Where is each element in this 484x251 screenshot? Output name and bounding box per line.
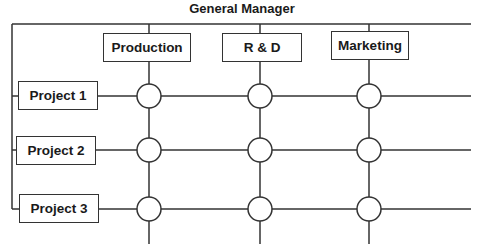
project-box-1: Project 1: [18, 81, 98, 110]
intersection-node: [248, 138, 272, 162]
department-box-production: Production: [103, 33, 191, 62]
intersection-node: [137, 197, 161, 221]
project-box-3: Project 3: [19, 194, 99, 223]
intersection-node: [137, 84, 161, 108]
intersection-node: [137, 138, 161, 162]
project-box-2: Project 2: [16, 136, 96, 165]
intersection-node: [248, 84, 272, 108]
intersection-node: [357, 138, 381, 162]
intersection-node: [248, 197, 272, 221]
department-box-rnd: R & D: [222, 33, 302, 62]
intersection-node: [357, 197, 381, 221]
department-box-marketing: Marketing: [331, 31, 409, 60]
intersection-node: [357, 84, 381, 108]
